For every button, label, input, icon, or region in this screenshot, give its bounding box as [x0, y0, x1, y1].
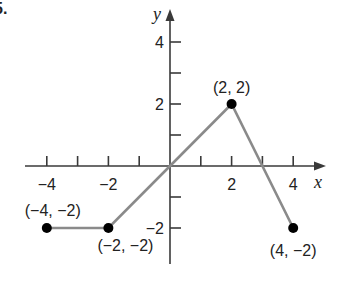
- point-label: (2, 2): [213, 79, 250, 96]
- y-ticks: [170, 42, 181, 228]
- point-label: (−4, −2): [25, 202, 81, 219]
- y-tick-label: 4: [155, 34, 164, 51]
- data-point: [103, 223, 113, 233]
- data-point: [227, 99, 237, 109]
- y-axis-arrow-icon: [166, 9, 175, 21]
- point-label: (−2, −2): [97, 237, 153, 254]
- function-graph: 5. −4−224 42−2 x y (−4, −2)(−2, −2)(2, 2…: [0, 0, 340, 284]
- axes: [25, 9, 326, 264]
- x-tick-labels: −4−224: [38, 176, 298, 193]
- x-tick-label: 2: [227, 176, 236, 193]
- x-tick-label: 4: [289, 176, 298, 193]
- point-label: (4, −2): [270, 242, 317, 259]
- problem-marker: 5.: [0, 0, 7, 17]
- data-point: [288, 223, 298, 233]
- x-tick-label: −4: [38, 176, 56, 193]
- data-point: [42, 223, 52, 233]
- y-tick-labels: 42−2: [146, 34, 164, 237]
- x-tick-label: −2: [99, 176, 117, 193]
- x-axis-arrow-icon: [314, 162, 326, 171]
- x-axis-label: x: [313, 172, 322, 192]
- y-axis-label: y: [151, 4, 161, 24]
- y-tick-label: −2: [146, 220, 164, 237]
- y-tick-label: 2: [155, 96, 164, 113]
